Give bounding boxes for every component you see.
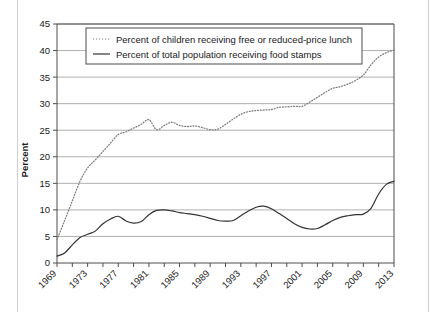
y-tick-label-25: 25	[39, 125, 50, 136]
line-chart-svg: 051015202530354045 196919731977198119851…	[0, 0, 446, 312]
x-tick-label-1989: 1989	[189, 268, 212, 291]
y-tick-label-10: 10	[39, 204, 50, 215]
legend-label-food-stamps: Percent of total population receiving fo…	[116, 49, 322, 60]
y-axis-ticks: 051015202530354045	[39, 18, 57, 268]
chart-figure: 051015202530354045 196919731977198119851…	[0, 0, 446, 312]
x-tick-label-1981: 1981	[128, 268, 151, 291]
y-tick-label-20: 20	[39, 151, 50, 162]
x-tick-label-1997: 1997	[250, 268, 273, 291]
legend-label-children-lunch: Percent of children receiving free or re…	[116, 34, 352, 45]
x-tick-label-1977: 1977	[97, 268, 120, 291]
x-tick-label-2009: 2009	[342, 268, 365, 291]
y-tick-label-15: 15	[39, 178, 50, 189]
y-tick-label-40: 40	[39, 45, 50, 56]
x-tick-label-1973: 1973	[66, 268, 89, 291]
y-tick-label-30: 30	[39, 98, 50, 109]
y-axis-title: Percent	[19, 142, 30, 178]
x-tick-label-1993: 1993	[220, 268, 243, 291]
chart-legend: Percent of children receiving free or re…	[86, 28, 362, 64]
y-tick-label-5: 5	[45, 231, 50, 242]
x-tick-label-2013: 2013	[373, 268, 396, 291]
x-tick-label-1969: 1969	[36, 268, 59, 291]
x-tick-label-2005: 2005	[311, 268, 334, 291]
y-tick-label-0: 0	[45, 257, 50, 268]
y-tick-label-45: 45	[39, 18, 50, 29]
x-tick-label-1985: 1985	[158, 268, 181, 291]
x-axis-ticks: 1969197319771981198519891993199720012005…	[36, 263, 396, 290]
y-tick-label-35: 35	[39, 72, 50, 83]
x-tick-label-2001: 2001	[281, 268, 304, 291]
